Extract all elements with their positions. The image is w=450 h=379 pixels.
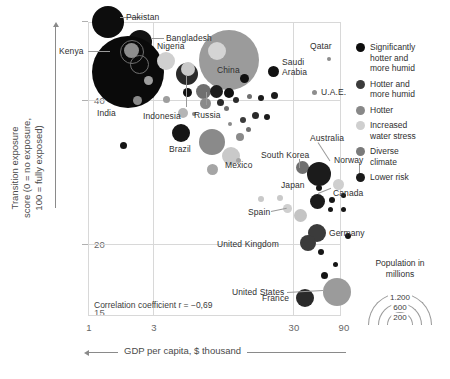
label-australia: Australia (310, 133, 344, 143)
label-united-kingdom: United Kingdom (217, 239, 279, 249)
bubble-saudi-arabia[interactable] (268, 66, 279, 77)
bubble-misc-18[interactable] (228, 122, 232, 126)
bubble-misc-6[interactable] (217, 99, 224, 106)
bubble-overlay-small-gray-2[interactable] (124, 43, 139, 58)
bubble-misc-9[interactable] (258, 95, 264, 101)
legend-swatch-hotter-and-more-humid (356, 80, 365, 89)
bubble-misc-2[interactable] (183, 88, 192, 97)
legend-label-line3: more humid (370, 63, 415, 73)
leader-kenya (88, 51, 110, 52)
y-axis-arrow (55, 22, 56, 208)
bubble-pakistan[interactable] (92, 6, 124, 38)
bubble-spain-right[interactable] (294, 209, 307, 222)
label-france: France (262, 293, 289, 303)
bubble-indonesia-inner (181, 62, 195, 76)
label-pakistan: Pakistan (126, 12, 159, 22)
legend-swatch-hotter (356, 106, 365, 115)
bubble-china-inner (208, 42, 226, 60)
bubble-united-states[interactable] (323, 278, 351, 306)
legend-swatch-significantly-hotter-and-more-humid (356, 43, 365, 52)
bubble-misc-17[interactable] (246, 127, 251, 132)
y-axis-label-line3: 100 = fully exposed) (33, 125, 44, 210)
bubble-misc-15[interactable] (252, 112, 259, 119)
bubble-misc-8[interactable] (247, 94, 252, 99)
legend-item-hotter-and-more-humid[interactable]: Hotter and more humid (356, 79, 448, 100)
bubble-misc-16[interactable] (264, 114, 270, 120)
bubble-overlay-small-gray[interactable] (144, 76, 153, 85)
legend-label-line2: climate (370, 157, 397, 167)
leader-indonesia (186, 75, 187, 107)
bubble-brazil[interactable] (199, 129, 225, 155)
size-legend-title: Population in millions (352, 258, 448, 279)
legend-label-increased-water-stress: Increased water stress (370, 120, 416, 141)
legend-item-diverse-climate[interactable]: Diverse climate (356, 146, 448, 167)
bubble-misc-10[interactable] (271, 92, 278, 99)
legend-label-diverse-climate: Diverse climate (370, 146, 399, 167)
label-qatar: Qatar (310, 41, 332, 51)
x-tick-30: 30 (279, 322, 309, 333)
size-legend-title-line1: Population in (375, 258, 424, 268)
bubble-russia-neighbor[interactable] (210, 85, 223, 98)
bubble-brazil-left[interactable] (172, 124, 190, 142)
legend-swatch-increased-water-stress (356, 121, 365, 130)
label-russia: Russia (194, 110, 221, 120)
bubble-misc-12[interactable] (236, 133, 244, 141)
legend-swatch-lower-risk (356, 173, 365, 182)
size-legend: Population in millions 1.200 600 200 (352, 258, 448, 325)
legend-label-line1: Diverse (370, 146, 399, 156)
bubble-misc-23[interactable] (316, 185, 322, 191)
bubble-misc-32[interactable] (333, 262, 338, 267)
correlation-annotation: Correlation coefficient r = −0,69 (94, 300, 212, 310)
label-uae: U.A.E. (321, 87, 346, 97)
label-saudi-arabia-2: Arabia (282, 67, 307, 77)
legend-label-line2: hotter and (370, 53, 408, 63)
bubble-misc-7[interactable] (233, 97, 239, 103)
legend-item-lower-risk[interactable]: Lower risk (356, 172, 448, 183)
bubble-misc-27[interactable] (341, 207, 346, 212)
bubble-united-kingdom[interactable] (300, 235, 316, 251)
bubble-qatar[interactable] (327, 57, 331, 61)
label-mexico: Mexico (225, 160, 253, 170)
bubble-misc-13[interactable] (207, 164, 218, 175)
legend-label-line1: Hotter and (370, 79, 410, 89)
bubble-misc-28[interactable] (258, 196, 264, 202)
size-value-1200: 1.200 (388, 293, 412, 302)
bubble-misc-21[interactable] (120, 142, 127, 149)
bubble-nigeria[interactable] (157, 52, 175, 70)
legend-label-hotter-and-more-humid: Hotter and more humid (370, 79, 415, 100)
bubble-misc-29[interactable] (277, 195, 283, 201)
size-legend-rings: 1.200 600 200 (352, 281, 448, 325)
label-canada: Canada (333, 188, 363, 198)
legend-label-lower-risk: Lower risk (370, 172, 409, 183)
legend-label-significantly-hotter-and-more-humid: Significantly hotter and more humid (370, 42, 415, 74)
legend-item-hotter[interactable]: Hotter (356, 105, 448, 116)
legend-label-line2: more humid (370, 89, 415, 99)
bubble-misc-31[interactable] (318, 249, 324, 255)
y-axis-label-line2: score (0 = no exposure, (21, 118, 32, 218)
bubble-misc-33[interactable] (321, 272, 328, 279)
leader-bangladesh (151, 38, 164, 39)
leader-south-korea (299, 159, 300, 168)
bubble-misc-5[interactable] (133, 96, 142, 105)
legend-label-hotter: Hotter (370, 105, 393, 116)
label-brazil: Brazil (169, 144, 191, 154)
label-nigeria: Nigeria (157, 41, 185, 51)
legend-item-significantly-hotter-and-more-humid[interactable]: Significantly hotter and more humid (356, 42, 448, 74)
bubble-misc-19[interactable] (224, 106, 229, 111)
x-tick-3: 3 (139, 322, 169, 333)
bubble-misc-4[interactable] (163, 96, 170, 103)
label-kenya: Kenya (59, 46, 84, 56)
x-tick-1: 1 (74, 322, 104, 333)
bubble-canada[interactable] (310, 194, 325, 209)
legend-item-increased-water-stress[interactable]: Increased water stress (356, 120, 448, 141)
label-south-korea: South Korea (261, 150, 309, 160)
bubble-misc-14[interactable] (240, 117, 246, 123)
label-germany: Germany (329, 228, 365, 238)
bubble-russia[interactable] (196, 84, 211, 99)
bubble-misc-26[interactable] (328, 207, 333, 212)
bubble-misc-1[interactable] (224, 88, 234, 98)
bubble-uae[interactable] (312, 90, 317, 95)
x-axis-label: GDP per capita, $ thousand (118, 345, 247, 356)
legend-label-line1: Increased (370, 120, 407, 130)
bubble-japan[interactable] (307, 162, 331, 186)
